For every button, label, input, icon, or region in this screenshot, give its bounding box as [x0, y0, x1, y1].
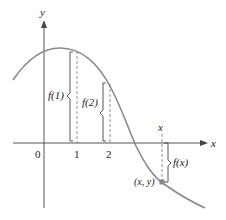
f1-label: f(1): [48, 89, 64, 102]
point-label: (x, y): [134, 176, 155, 188]
y-axis-arrow-icon: [41, 20, 47, 28]
y-axis-label: y: [39, 6, 45, 18]
x-marker-label: x: [157, 121, 163, 133]
fx-annotation: [160, 134, 172, 185]
f1-brace: [67, 52, 73, 141]
fx-brace: [164, 143, 171, 182]
f2-annotation: [100, 83, 110, 143]
function-curve: [13, 48, 205, 208]
origin-label: 0: [35, 148, 41, 160]
axes: [13, 20, 208, 208]
tick-label-2: 2: [106, 148, 112, 160]
tick-label-1: 1: [74, 148, 80, 160]
f2-label: f(2): [82, 96, 98, 109]
point-marker: [160, 180, 165, 185]
x-axis-label: x: [210, 137, 216, 149]
f1-annotation: [67, 51, 77, 143]
function-graph-diagram: y x 0 1 2 f(1) f(2) f(x) (x, y) x: [0, 0, 226, 220]
f2-brace: [100, 83, 106, 141]
fx-label: f(x): [173, 156, 189, 169]
x-axis-arrow-icon: [200, 140, 208, 146]
